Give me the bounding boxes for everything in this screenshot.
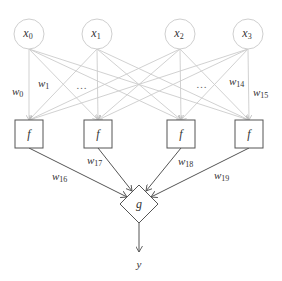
weight-label-dots_right: …: [196, 78, 207, 90]
input-nodes: x0x1x2x3: [14, 19, 263, 49]
hidden-node-f2: f: [167, 120, 195, 148]
weight-label-dots_left: …: [76, 79, 87, 91]
hidden-nodes: ffff: [15, 120, 263, 148]
edge-x2-f2: [180, 49, 181, 120]
input-node-x2: x2: [165, 19, 195, 49]
weight-label-w17: w17: [87, 154, 102, 168]
weight-label-w19: w19: [214, 169, 229, 183]
weight-label-w18: w18: [178, 155, 193, 169]
input-node-x3: x3: [233, 19, 263, 49]
edge-f3-g: [151, 148, 249, 197]
hidden-node-f3: f: [235, 120, 263, 148]
output-node-g: g: [120, 185, 158, 223]
neural-network-diagram: x0x1x2x3 ffff g y w0w1……w14w15w16w17w18w…: [0, 0, 282, 281]
weight-label-w15: w15: [253, 86, 268, 100]
edge-x1-f1: [97, 49, 98, 120]
edge-x3-f3: [248, 49, 249, 120]
weight-label-w16: w16: [52, 170, 67, 184]
input-node-x0: x0: [14, 19, 44, 49]
weight-labels: w0w1……w14w15w16w17w18w19: [12, 75, 268, 184]
input-to-hidden-edges: [29, 49, 249, 120]
weight-label-w0: w0: [12, 85, 23, 99]
hidden-node-f1: f: [84, 120, 112, 148]
weight-label-w1: w1: [38, 77, 49, 91]
input-node-x1: x1: [82, 19, 112, 49]
output-label-y: y: [136, 258, 142, 270]
weight-label-w14: w14: [229, 75, 244, 89]
g-label: g: [136, 197, 142, 211]
hidden-node-f0: f: [15, 120, 43, 148]
edge-f0-g: [29, 148, 127, 197]
